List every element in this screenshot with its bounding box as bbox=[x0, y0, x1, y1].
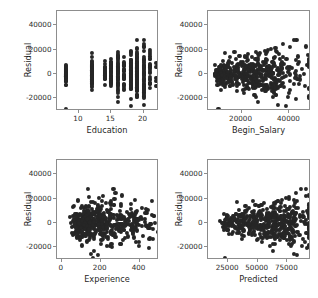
data-point bbox=[273, 242, 277, 246]
data-point bbox=[256, 237, 260, 241]
y-tick-label: 20000 bbox=[180, 193, 203, 202]
y-tick-mark bbox=[204, 246, 207, 247]
data-point bbox=[280, 198, 284, 202]
plot-area-predicted bbox=[207, 159, 310, 259]
data-point bbox=[300, 244, 304, 248]
data-point bbox=[294, 217, 298, 221]
data-point bbox=[260, 240, 264, 244]
data-point bbox=[223, 256, 227, 259]
y-tick-label: 40000 bbox=[180, 169, 203, 178]
x-tick-mark bbox=[257, 259, 258, 262]
data-point bbox=[294, 191, 298, 195]
data-point bbox=[264, 235, 268, 239]
data-point bbox=[251, 199, 255, 203]
data-point bbox=[296, 206, 300, 210]
data-point bbox=[307, 214, 310, 218]
data-point bbox=[235, 231, 239, 235]
residual-diagnostics-figure: Residual Education -20000020000400001015… bbox=[0, 0, 318, 298]
data-point bbox=[307, 233, 310, 237]
x-tick-label: 50000 bbox=[245, 263, 268, 272]
data-point bbox=[304, 187, 308, 191]
data-point bbox=[307, 203, 310, 207]
data-point bbox=[307, 193, 310, 197]
data-point bbox=[295, 223, 299, 227]
data-point bbox=[260, 203, 264, 207]
x-axis-label-predicted: Predicted bbox=[239, 274, 277, 284]
x-tick-mark bbox=[227, 259, 228, 262]
subplot-predicted: Residual Predicted -20000020000400002500… bbox=[0, 0, 318, 298]
y-tick-mark bbox=[204, 198, 207, 199]
x-tick-label: 75000 bbox=[275, 263, 298, 272]
data-point bbox=[299, 187, 303, 191]
x-tick-mark bbox=[286, 259, 287, 262]
data-point bbox=[307, 245, 310, 249]
data-point bbox=[287, 197, 291, 201]
y-tick-mark bbox=[204, 222, 207, 223]
y-tick-mark bbox=[204, 173, 207, 174]
data-point bbox=[230, 232, 234, 236]
x-tick-label: 25000 bbox=[216, 263, 239, 272]
y-tick-label: -20000 bbox=[177, 241, 202, 250]
data-point bbox=[235, 200, 239, 204]
data-point bbox=[271, 249, 275, 253]
y-tick-label: 0 bbox=[198, 217, 203, 226]
